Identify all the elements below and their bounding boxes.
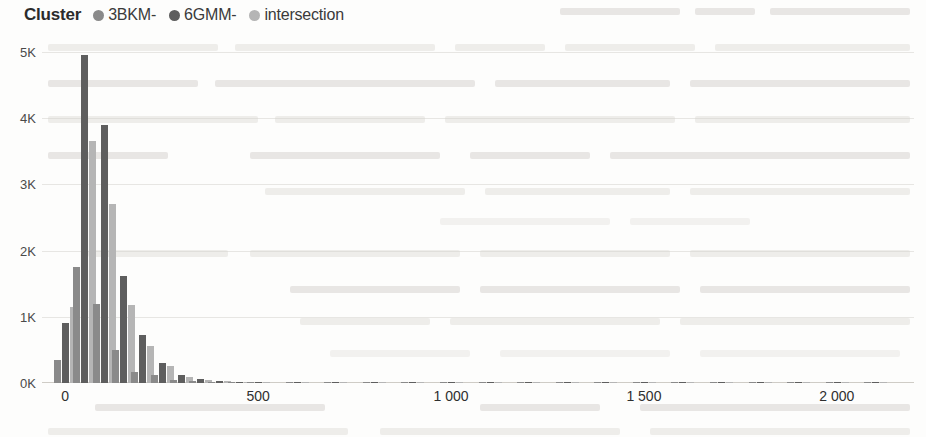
bar[interactable] <box>197 379 204 383</box>
bar[interactable] <box>81 55 88 383</box>
bar[interactable] <box>101 125 108 383</box>
bar[interactable] <box>556 382 563 383</box>
bar-group[interactable] <box>517 52 540 383</box>
bar[interactable] <box>602 382 609 383</box>
bar[interactable] <box>62 323 69 383</box>
bar-group[interactable] <box>401 52 424 383</box>
bar[interactable] <box>726 382 733 383</box>
bar[interactable] <box>880 382 887 383</box>
chart-screenshot: Cluster 3BKM- 6GMM- intersection 0K1K2K3… <box>0 0 926 437</box>
y-axis-tick-label: 1K <box>0 309 36 324</box>
bar-group[interactable] <box>749 52 772 383</box>
bar[interactable] <box>263 382 270 383</box>
legend-label-intersection: intersection <box>264 6 343 24</box>
bar[interactable] <box>479 382 486 383</box>
bar[interactable] <box>371 382 378 383</box>
bar[interactable] <box>487 382 494 383</box>
bar[interactable] <box>456 382 463 383</box>
y-axis-tick-label: 5K <box>0 45 36 60</box>
bar[interactable] <box>324 382 331 383</box>
legend-item-6gmm[interactable]: 6GMM- <box>169 6 236 24</box>
bar[interactable] <box>228 382 235 383</box>
bar[interactable] <box>633 382 640 383</box>
bar-group[interactable] <box>556 52 579 383</box>
bar[interactable] <box>495 382 502 383</box>
bar-group[interactable] <box>633 52 656 383</box>
bar[interactable] <box>671 382 678 383</box>
legend-item-intersection[interactable]: intersection <box>249 6 343 24</box>
bar[interactable] <box>170 380 177 383</box>
bar[interactable] <box>363 382 370 383</box>
legend-title: Cluster <box>24 5 81 25</box>
plot-area <box>42 52 914 383</box>
bar[interactable] <box>757 382 764 383</box>
legend-label-3bkm: 3BKM- <box>108 6 156 24</box>
bar[interactable] <box>710 382 717 383</box>
bar-group[interactable] <box>864 52 887 383</box>
bar[interactable] <box>189 381 196 383</box>
bar-group[interactable] <box>671 52 694 383</box>
bar[interactable] <box>594 382 601 383</box>
bar[interactable] <box>834 382 841 383</box>
bar[interactable] <box>112 350 119 383</box>
bar[interactable] <box>641 382 648 383</box>
bar[interactable] <box>417 382 424 383</box>
bar[interactable] <box>131 372 138 383</box>
bar[interactable] <box>826 382 833 383</box>
bar[interactable] <box>120 276 127 383</box>
bar[interactable] <box>159 363 166 383</box>
bar-group[interactable] <box>479 52 502 383</box>
bar[interactable] <box>93 304 100 383</box>
bar[interactable] <box>440 382 447 383</box>
x-axis-tick-label: 1 000 <box>433 388 468 404</box>
bar[interactable] <box>73 267 80 383</box>
bar[interactable] <box>332 382 339 383</box>
bar[interactable] <box>649 382 656 383</box>
bar[interactable] <box>448 382 455 383</box>
bar[interactable] <box>379 382 386 383</box>
bar[interactable] <box>842 382 849 383</box>
bar[interactable] <box>294 382 301 383</box>
bar-group[interactable] <box>787 52 810 383</box>
bar[interactable] <box>54 360 61 383</box>
bar[interactable] <box>687 382 694 383</box>
bar[interactable] <box>610 382 617 383</box>
bar-group[interactable] <box>247 52 270 383</box>
bar[interactable] <box>236 382 243 383</box>
bar[interactable] <box>718 382 725 383</box>
bar[interactable] <box>765 382 772 383</box>
bar[interactable] <box>255 382 262 383</box>
bar-group[interactable] <box>363 52 386 383</box>
bar[interactable] <box>864 382 871 383</box>
bar[interactable] <box>572 382 579 383</box>
bar[interactable] <box>749 382 756 383</box>
bar[interactable] <box>401 382 408 383</box>
legend-item-3bkm[interactable]: 3BKM- <box>93 6 156 24</box>
bar[interactable] <box>564 382 571 383</box>
bar[interactable] <box>286 382 293 383</box>
bar-group[interactable] <box>286 52 309 383</box>
bar[interactable] <box>139 335 146 383</box>
bar[interactable] <box>517 382 524 383</box>
bar[interactable] <box>409 382 416 383</box>
bar[interactable] <box>247 382 254 383</box>
bar[interactable] <box>340 382 347 383</box>
bar[interactable] <box>151 375 158 383</box>
bar[interactable] <box>803 382 810 383</box>
bar[interactable] <box>679 382 686 383</box>
bar-group[interactable] <box>710 52 733 383</box>
bar[interactable] <box>208 382 215 383</box>
bar[interactable] <box>872 382 879 383</box>
bar-group[interactable] <box>440 52 463 383</box>
bar-group[interactable] <box>826 52 849 383</box>
bar[interactable] <box>533 382 540 383</box>
bar[interactable] <box>216 381 223 383</box>
bar[interactable] <box>525 382 532 383</box>
bar-group[interactable] <box>324 52 347 383</box>
bar-group[interactable] <box>594 52 617 383</box>
bar[interactable] <box>787 382 794 383</box>
x-axis-tick-label: 2 000 <box>819 388 854 404</box>
bar[interactable] <box>795 382 802 383</box>
bar[interactable] <box>302 382 309 383</box>
bar[interactable] <box>178 375 185 383</box>
